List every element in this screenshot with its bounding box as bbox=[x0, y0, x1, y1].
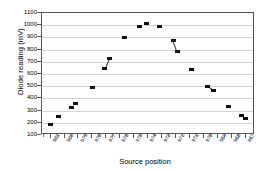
data-point bbox=[144, 22, 149, 25]
y-tick-label: 1100 bbox=[13, 9, 37, 15]
y-tick-label: 900 bbox=[13, 33, 37, 39]
gridline bbox=[42, 37, 253, 38]
x-tick-mark bbox=[231, 134, 232, 138]
x-tick-mark bbox=[175, 134, 176, 138]
gridline bbox=[42, 62, 253, 63]
x-tick-minor bbox=[154, 134, 155, 137]
y-tick-mark bbox=[37, 61, 41, 62]
x-tick-label: 980 bbox=[65, 133, 74, 143]
x-tick-mark bbox=[64, 134, 65, 138]
y-tick-label: 800 bbox=[13, 46, 37, 52]
y-tick-mark bbox=[37, 85, 41, 86]
x-tick-mark bbox=[147, 134, 148, 138]
x-axis-title: Source position bbox=[34, 157, 256, 166]
gridline bbox=[42, 86, 253, 87]
x-tick-label: 974 bbox=[148, 133, 157, 143]
x-tick-minor bbox=[168, 134, 169, 137]
x-tick-label: 978 bbox=[93, 133, 102, 143]
y-tick-label: 100 bbox=[13, 131, 37, 137]
x-tick-label: 979 bbox=[79, 133, 88, 143]
x-tick-mark bbox=[189, 134, 190, 138]
data-point bbox=[73, 102, 78, 105]
gridline bbox=[42, 50, 253, 51]
data-point bbox=[189, 68, 194, 71]
x-tick-minor bbox=[238, 134, 239, 137]
gridline bbox=[42, 111, 253, 112]
x-tick-label: 972 bbox=[176, 133, 185, 143]
data-point bbox=[226, 105, 231, 108]
x-tick-label: 968 bbox=[232, 133, 241, 143]
y-tick-label: 400 bbox=[13, 94, 37, 100]
y-tick-mark bbox=[37, 49, 41, 50]
x-tick-mark bbox=[245, 134, 246, 138]
y-tick-label: 600 bbox=[13, 70, 37, 76]
y-tick-mark bbox=[37, 134, 41, 135]
x-tick-label: 976 bbox=[120, 133, 129, 143]
x-tick-minor bbox=[98, 134, 99, 137]
x-tick-minor bbox=[182, 134, 183, 137]
data-point bbox=[211, 89, 216, 92]
x-tick-minor bbox=[196, 134, 197, 137]
y-tick-mark bbox=[37, 12, 41, 13]
x-tick-minor bbox=[43, 134, 44, 137]
x-tick-minor bbox=[210, 134, 211, 137]
y-tick-mark bbox=[37, 122, 41, 123]
data-point bbox=[157, 25, 162, 28]
y-tick-label: 500 bbox=[13, 82, 37, 88]
x-tick-label: 970 bbox=[204, 133, 213, 143]
gridline bbox=[42, 123, 253, 124]
x-tick-minor bbox=[140, 134, 141, 137]
y-tick-label: 300 bbox=[13, 107, 37, 113]
y-tick-mark bbox=[37, 97, 41, 98]
y-tick-mark bbox=[37, 24, 41, 25]
x-tick-minor bbox=[57, 134, 58, 137]
data-point bbox=[102, 67, 107, 70]
gridline bbox=[42, 25, 253, 26]
data-point bbox=[205, 85, 210, 88]
x-tick-label: 971 bbox=[190, 133, 199, 143]
data-point bbox=[243, 117, 248, 120]
plot-area bbox=[41, 12, 254, 134]
x-tick-label: 977 bbox=[107, 133, 116, 143]
y-tick-label: 700 bbox=[13, 58, 37, 64]
data-point bbox=[69, 106, 74, 109]
gridline bbox=[42, 98, 253, 99]
data-point bbox=[90, 86, 95, 89]
data-point bbox=[56, 115, 61, 118]
data-point bbox=[175, 50, 180, 53]
chart-figure: Diode reading (mV) 110010009008007006005… bbox=[0, 0, 268, 171]
x-tick-label: 969 bbox=[218, 133, 227, 143]
x-tick-label: 967 bbox=[246, 133, 255, 143]
x-tick-minor bbox=[112, 134, 113, 137]
data-point bbox=[122, 36, 127, 39]
x-tick-mark bbox=[91, 134, 92, 138]
x-tick-minor bbox=[84, 134, 85, 137]
x-tick-mark bbox=[203, 134, 204, 138]
y-tick-label: 1000 bbox=[13, 21, 37, 27]
data-point bbox=[107, 57, 112, 60]
x-tick-minor bbox=[224, 134, 225, 137]
x-tick-minor bbox=[126, 134, 127, 137]
data-point bbox=[137, 25, 142, 28]
data-point bbox=[48, 123, 53, 126]
x-tick-mark bbox=[77, 134, 78, 138]
x-tick-label: 975 bbox=[134, 133, 143, 143]
gridline bbox=[42, 74, 253, 75]
x-tick-minor bbox=[71, 134, 72, 137]
x-tick-label: 981 bbox=[51, 133, 60, 143]
data-point bbox=[171, 39, 176, 42]
y-tick-mark bbox=[37, 73, 41, 74]
y-tick-label: 200 bbox=[13, 119, 37, 125]
x-tick-mark bbox=[50, 134, 51, 138]
y-tick-mark bbox=[37, 36, 41, 37]
y-tick-mark bbox=[37, 110, 41, 111]
x-tick-mark bbox=[161, 134, 162, 138]
x-tick-mark bbox=[217, 134, 218, 138]
x-tick-mark bbox=[105, 134, 106, 138]
x-tick-label: 973 bbox=[162, 133, 171, 143]
